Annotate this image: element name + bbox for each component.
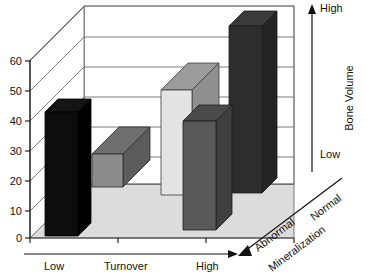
chart-canvas: 0 10 20 30 40 50 60 Low Turnover High <box>0 0 365 273</box>
bar-high-middle <box>183 105 232 230</box>
y-tick-40: 40 <box>10 115 22 127</box>
right-axis-label-high: High <box>320 2 343 14</box>
y-tick-10: 10 <box>10 205 22 217</box>
right-axis-arrow <box>308 4 316 172</box>
x-axis-arrow <box>24 250 238 258</box>
y-tick-60: 60 <box>10 55 22 67</box>
y-axis-ticks <box>25 61 30 238</box>
y-tick-0: 0 <box>16 232 22 244</box>
z-axis-label-normal: Normal <box>308 192 344 223</box>
bar-chart-3d: 0 10 20 30 40 50 60 Low Turnover High <box>0 0 365 273</box>
y-tick-30: 30 <box>10 145 22 157</box>
x-axis-label-low: Low <box>44 260 64 272</box>
right-axis-label-low: Low <box>320 148 340 160</box>
y-axis-tick-labels: 0 10 20 30 40 50 60 <box>10 55 22 244</box>
x-axis-title: Turnover <box>104 260 148 272</box>
bar-low-abnormal <box>45 99 91 236</box>
bar-high-abnormal <box>229 11 277 193</box>
y-tick-50: 50 <box>10 85 22 97</box>
y-tick-20: 20 <box>10 175 22 187</box>
right-axis-title: Bone Volume <box>343 65 355 130</box>
x-axis-label-high: High <box>196 260 219 272</box>
